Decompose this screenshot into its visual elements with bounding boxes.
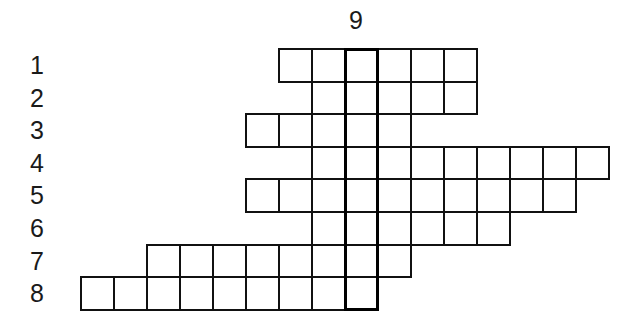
grid-cell-r4-c14[interactable]	[542, 146, 577, 181]
grid-cell-r7-c8[interactable]	[344, 244, 379, 279]
row-label-1: 1	[30, 53, 44, 78]
grid-cell-r8-c0[interactable]	[80, 276, 115, 311]
grid-cell-r5-c13[interactable]	[509, 178, 544, 213]
grid-cell-r8-c1[interactable]	[113, 276, 148, 311]
grid-cell-r3-c8[interactable]	[344, 113, 379, 148]
grid-cell-r3-c5[interactable]	[245, 113, 280, 148]
grid-cell-r6-c7[interactable]	[311, 211, 346, 246]
grid-cell-r5-c9[interactable]	[377, 178, 412, 213]
grid-cell-r5-c7[interactable]	[311, 178, 346, 213]
grid-cell-r5-c10[interactable]	[410, 178, 445, 213]
row-label-5: 5	[30, 183, 44, 208]
grid-cell-r2-c7[interactable]	[311, 81, 346, 116]
grid-cell-r4-c10[interactable]	[410, 146, 445, 181]
grid-cell-r1-c7[interactable]	[311, 48, 346, 83]
grid-cell-r7-c5[interactable]	[245, 244, 280, 279]
grid-cell-r4-c15[interactable]	[575, 146, 610, 181]
grid-cell-r6-c10[interactable]	[410, 211, 445, 246]
row-label-4: 4	[30, 151, 44, 176]
grid-cell-r5-c8[interactable]	[344, 178, 379, 213]
row-label-6: 6	[30, 216, 44, 241]
grid-cell-r1-c11[interactable]	[443, 48, 478, 83]
grid-cell-r1-c10[interactable]	[410, 48, 445, 83]
grid-cell-r7-c2[interactable]	[146, 244, 181, 279]
grid-cell-r7-c3[interactable]	[179, 244, 214, 279]
grid-cell-r1-c9[interactable]	[377, 48, 412, 83]
column-label-9: 9	[349, 8, 363, 33]
grid-cell-r8-c4[interactable]	[212, 276, 247, 311]
row-label-2: 2	[30, 86, 44, 111]
grid-cell-r1-c8[interactable]	[344, 48, 379, 83]
grid-cell-r3-c9[interactable]	[377, 113, 412, 148]
grid-cell-r4-c12[interactable]	[476, 146, 511, 181]
grid-cell-r2-c10[interactable]	[410, 81, 445, 116]
grid-cell-r6-c11[interactable]	[443, 211, 478, 246]
grid-cell-r8-c3[interactable]	[179, 276, 214, 311]
grid-cell-r8-c6[interactable]	[278, 276, 313, 311]
grid-cell-r3-c6[interactable]	[278, 113, 313, 148]
grid-cell-r5-c6[interactable]	[278, 178, 313, 213]
grid-cell-r7-c7[interactable]	[311, 244, 346, 279]
grid-cell-r6-c8[interactable]	[344, 211, 379, 246]
row-label-8: 8	[30, 281, 44, 306]
grid-cell-r5-c12[interactable]	[476, 178, 511, 213]
grid-cell-r7-c6[interactable]	[278, 244, 313, 279]
grid-cell-r2-c9[interactable]	[377, 81, 412, 116]
grid-cell-r4-c11[interactable]	[443, 146, 478, 181]
grid-cell-r1-c6[interactable]	[278, 48, 313, 83]
grid-cell-r4-c9[interactable]	[377, 146, 412, 181]
grid-cell-r6-c12[interactable]	[476, 211, 511, 246]
grid-cell-r5-c5[interactable]	[245, 178, 280, 213]
grid-cell-r8-c7[interactable]	[311, 276, 346, 311]
grid-cell-r2-c8[interactable]	[344, 81, 379, 116]
grid-cell-r6-c9[interactable]	[377, 211, 412, 246]
grid-cell-r4-c8[interactable]	[344, 146, 379, 181]
grid-cell-r8-c5[interactable]	[245, 276, 280, 311]
grid-cell-r7-c4[interactable]	[212, 244, 247, 279]
grid-cell-r5-c14[interactable]	[542, 178, 577, 213]
grid-cell-r4-c13[interactable]	[509, 146, 544, 181]
grid-cell-r5-c11[interactable]	[443, 178, 478, 213]
grid-cell-r8-c2[interactable]	[146, 276, 181, 311]
row-label-3: 3	[30, 118, 44, 143]
grid-cell-r3-c7[interactable]	[311, 113, 346, 148]
grid-cell-r2-c11[interactable]	[443, 81, 478, 116]
grid-cell-r4-c7[interactable]	[311, 146, 346, 181]
row-label-7: 7	[30, 249, 44, 274]
grid-cell-r7-c9[interactable]	[377, 244, 412, 279]
grid-cell-r8-c8[interactable]	[344, 276, 379, 311]
